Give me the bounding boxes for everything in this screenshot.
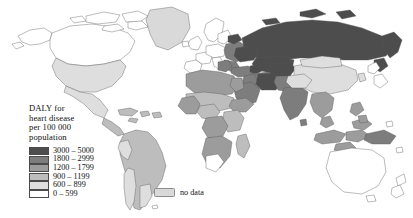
legend-swatch: [29, 190, 49, 198]
legend-swatch: [29, 164, 49, 172]
legend-title: DALY for heart disease per 100 000 popul…: [29, 104, 107, 143]
legend-swatch: [29, 173, 49, 181]
no-data-label: no data: [180, 188, 204, 197]
legend-swatch: [29, 181, 49, 189]
no-data-swatch: [154, 188, 175, 197]
legend-swatch: [29, 147, 49, 155]
no-data-key: no data: [154, 188, 204, 197]
map-legend: DALY for heart disease per 100 000 popul…: [29, 104, 107, 198]
legend-label: 0 – 599: [53, 190, 78, 199]
legend-row: 0 – 599: [29, 190, 107, 199]
choropleth-figure: .ct{stroke:#555;stroke-width:0.4;stroke-…: [0, 0, 413, 218]
legend-swatch: [29, 156, 49, 164]
legend-scale: 3000 – 5000 1800 – 2999 1200 – 1799 900 …: [29, 147, 107, 199]
